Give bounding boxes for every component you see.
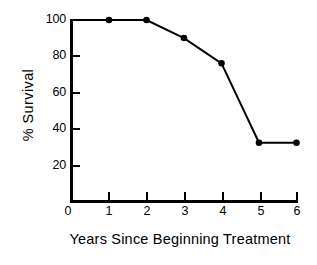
data-point-year-6 xyxy=(293,139,300,146)
series-markers-survival xyxy=(106,17,300,146)
data-point-year-5 xyxy=(256,139,263,146)
survival-chart-figure: 100 80 60 40 20 0 1 2 3 4 5 6 % Survival… xyxy=(0,0,317,265)
data-point-year-4 xyxy=(218,60,225,67)
data-point-year-2 xyxy=(143,17,150,24)
data-point-year-3 xyxy=(181,35,188,42)
data-point-year-1 xyxy=(106,17,113,24)
data-series-survival xyxy=(0,0,317,265)
